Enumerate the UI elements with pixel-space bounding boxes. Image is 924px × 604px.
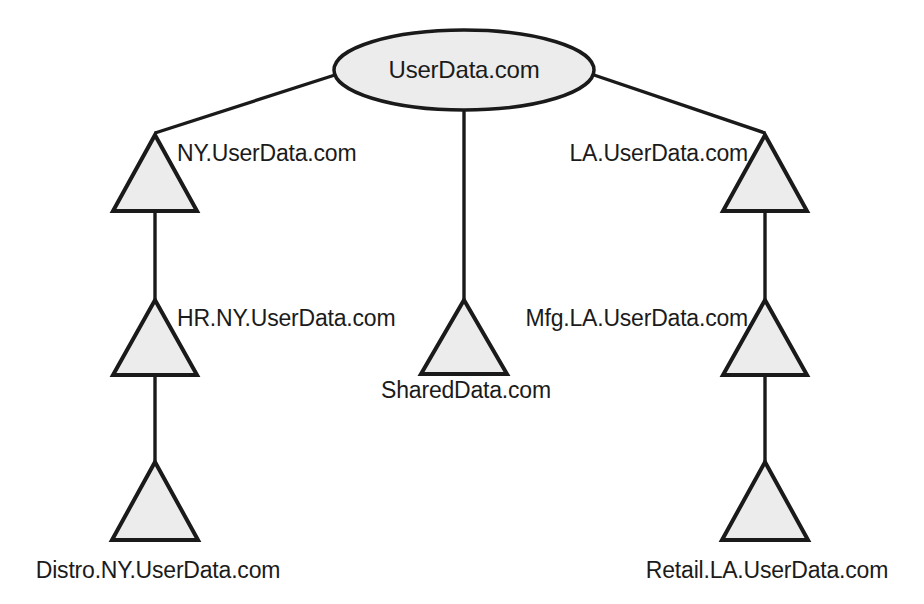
zone-label-shared: SharedData.com <box>381 377 551 403</box>
zone-label-ny: NY.UserData.com <box>177 140 356 166</box>
zone-triangle-shared[interactable] <box>421 300 507 374</box>
node-distro-ny[interactable]: Distro.NY.UserData.com <box>36 462 280 583</box>
node-mfg-la[interactable]: Mfg.LA.UserData.com <box>526 300 807 375</box>
node-hr-ny[interactable]: HR.NY.UserData.com <box>113 300 395 375</box>
node-root-zone[interactable]: UserData.com <box>334 30 594 110</box>
zone-label-hr-ny: HR.NY.UserData.com <box>177 305 395 331</box>
zone-label-retail-la: Retail.LA.UserData.com <box>646 557 888 583</box>
zone-triangle-distro-ny[interactable] <box>112 462 198 540</box>
diagram-canvas: NY.UserData.comHR.NY.UserData.comDistro.… <box>0 0 924 604</box>
zone-label-la: LA.UserData.com <box>569 140 748 166</box>
edge-root-to-la <box>591 74 765 133</box>
node-retail-la[interactable]: Retail.LA.UserData.com <box>646 462 888 583</box>
zone-label-mfg-la: Mfg.LA.UserData.com <box>526 305 748 331</box>
node-layer: NY.UserData.comHR.NY.UserData.comDistro.… <box>36 135 888 583</box>
root-zone-label: UserData.com <box>389 56 540 83</box>
zone-label-distro-ny: Distro.NY.UserData.com <box>36 557 280 583</box>
node-ny[interactable]: NY.UserData.com <box>113 135 356 211</box>
edge-layer <box>155 74 765 462</box>
edge-root-to-ny <box>155 74 338 133</box>
node-la[interactable]: LA.UserData.com <box>569 135 807 211</box>
zone-triangle-retail-la[interactable] <box>722 462 808 540</box>
dns-zone-diagram: NY.UserData.comHR.NY.UserData.comDistro.… <box>0 0 924 604</box>
